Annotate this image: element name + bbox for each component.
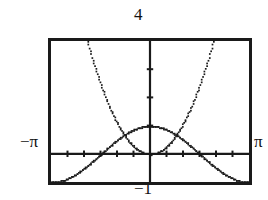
trace-pixel (204, 71, 206, 73)
trace-pixel (187, 115, 189, 117)
trace-pixel (104, 94, 106, 96)
trace-pixel (191, 106, 193, 108)
trace-pixel (185, 119, 187, 121)
trace-pixel (97, 73, 99, 75)
trace-pixel (195, 94, 197, 96)
x-min-label: −π (20, 133, 38, 150)
y-max-label: 4 (134, 6, 143, 23)
trace-pixel (205, 68, 207, 70)
trace-pixel (212, 44, 214, 46)
trace-pixel (206, 65, 208, 67)
trace-pixel (114, 117, 116, 119)
trace-pixel (248, 181, 249, 182)
trace-pixel (101, 87, 103, 89)
trace-pixel (210, 50, 212, 52)
trace-pixel (108, 103, 110, 105)
trace-pixel (90, 50, 92, 52)
trace-pixel (93, 63, 95, 65)
trace-pixel (106, 100, 108, 102)
trace-pixel (201, 79, 203, 81)
trace-pixel (198, 90, 200, 92)
trace-pixel (212, 48, 214, 50)
trace-pixel (90, 53, 92, 55)
trace-pixel (87, 44, 89, 46)
trace-pixel (195, 96, 197, 98)
trace-pixel (209, 57, 211, 59)
trace-pixel (105, 96, 107, 98)
trace-pixel (204, 73, 206, 75)
plot-canvas (51, 41, 249, 182)
trace-pixel (101, 84, 103, 86)
trace-pixel (93, 60, 95, 62)
trace-pixel (98, 79, 100, 81)
trace-pixel (112, 113, 114, 115)
trace-pixel (117, 123, 119, 125)
trace-pixel (198, 87, 200, 89)
trace-pixel (98, 76, 100, 78)
trace-pixel (194, 99, 196, 101)
trace-pixel (193, 103, 195, 105)
trace-pixel (96, 71, 98, 73)
trace-pixel (202, 76, 204, 78)
trace-pixel (209, 53, 211, 55)
trace-pixel (87, 41, 89, 43)
trace-pixel (89, 48, 91, 50)
trace-pixel (208, 60, 210, 62)
x-max-label: π (254, 133, 263, 150)
trace-pixel (182, 126, 184, 128)
trace-pixel (206, 63, 208, 65)
trace-pixel (109, 107, 111, 109)
axes-group (51, 41, 249, 182)
trace-pixel (200, 84, 202, 86)
trace-pixel (100, 82, 102, 84)
trace-pixel (94, 65, 96, 67)
trace-pixel (96, 68, 98, 70)
trace-pixel (213, 41, 215, 43)
plot-frame (48, 38, 252, 185)
trace-pixel (104, 91, 106, 93)
trace-pixel (190, 110, 192, 112)
calculator-screen: 4 −1 −π π (0, 0, 268, 200)
trace-pixel (92, 57, 94, 59)
trace-pixel (201, 82, 203, 84)
